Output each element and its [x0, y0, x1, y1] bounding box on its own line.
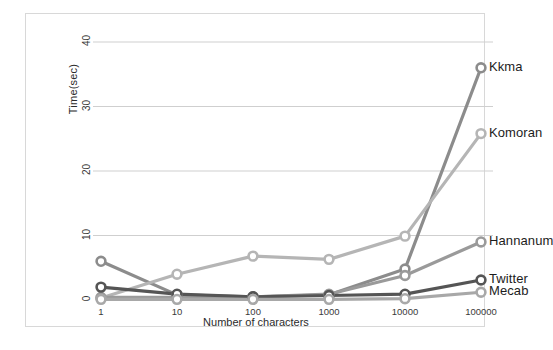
data-point-hannanum-100000: [477, 238, 486, 247]
chart-frame: Time(sec) 010203040 11010010001000010000…: [25, 13, 485, 327]
series-label-mecab: Mecab: [489, 283, 529, 298]
y-tick-10: 10: [81, 223, 92, 245]
series-label-hannanum: Hannanum: [489, 233, 553, 248]
data-point-mecab-1: [97, 295, 106, 304]
data-point-komoran-1000: [325, 255, 334, 264]
plot-area: [101, 42, 481, 300]
data-point-twitter-100000: [477, 276, 486, 285]
data-point-komoran-100000: [477, 129, 486, 138]
data-point-komoran-10: [173, 270, 182, 279]
data-point-mecab-10: [173, 295, 182, 304]
data-point-mecab-10000: [401, 294, 410, 303]
data-point-twitter-1: [97, 283, 106, 292]
y-tick-40: 40: [81, 30, 92, 52]
y-axis-title: Time(sec): [67, 44, 79, 134]
data-point-mecab-100000: [477, 288, 486, 297]
data-point-komoran-10000: [401, 232, 410, 241]
data-point-kkma-1: [97, 257, 106, 266]
data-point-komoran-100: [249, 252, 258, 261]
y-tick-20: 20: [81, 159, 92, 181]
series-label-kkma: Kkma: [489, 59, 523, 74]
data-point-hannanum-10000: [401, 271, 410, 280]
chart-canvas: [101, 42, 481, 300]
x-axis-title: Number of characters: [26, 316, 486, 328]
data-point-kkma-100000: [477, 63, 486, 72]
series-label-komoran: Komoran: [489, 125, 542, 140]
y-tick-30: 30: [81, 94, 92, 116]
data-point-mecab-1000: [325, 295, 334, 304]
data-point-mecab-100: [249, 295, 258, 304]
series-line-kkma: [101, 68, 481, 297]
